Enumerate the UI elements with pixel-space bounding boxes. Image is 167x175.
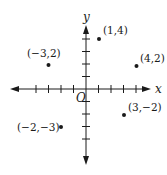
point-3-neg2: (3,−2)	[122, 101, 162, 117]
point-label: (1,4)	[103, 24, 128, 36]
y-axis-up-arrow-icon	[83, 25, 89, 34]
x-axis-left-arrow-icon	[10, 86, 19, 92]
y-axis-down-arrow-icon	[83, 156, 89, 165]
point-label: (4,2)	[140, 52, 165, 64]
y-axis: y	[82, 10, 90, 165]
point-dot	[59, 125, 63, 129]
point-neg2-neg3: (−2,−3)	[17, 121, 63, 133]
origin-label: O	[76, 91, 86, 105]
point-4-2: (4,2)	[135, 52, 165, 68]
x-axis-right-arrow-icon	[142, 86, 151, 92]
point-1-4: (1,4)	[97, 24, 128, 41]
coordinate-plane: x y O (1,4) (−3,2) (4,2) (3,−2)	[0, 0, 167, 175]
point-label: (−2,−3)	[17, 121, 60, 133]
x-axis-label: x	[155, 82, 162, 96]
point-label: (−3,2)	[27, 47, 61, 59]
point-dot	[135, 64, 139, 68]
point-label: (3,−2)	[128, 101, 162, 113]
y-axis-label: y	[82, 10, 90, 24]
point-dot	[47, 63, 51, 67]
point-neg3-2: (−3,2)	[27, 47, 61, 67]
point-dot	[97, 37, 101, 41]
point-dot	[122, 113, 126, 117]
